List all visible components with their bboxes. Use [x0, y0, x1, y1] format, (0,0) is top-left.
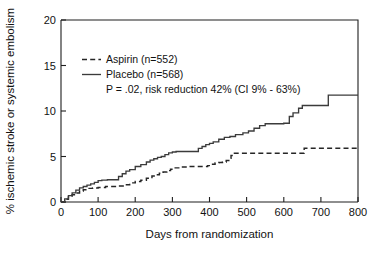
y-axis-ticks: 0 5 10 15 20 [44, 14, 66, 208]
x-tick-label-700: 700 [312, 206, 330, 218]
x-tick-label-100: 100 [89, 206, 107, 218]
x-tick-label-0: 0 [58, 206, 64, 218]
plot-frame [61, 20, 358, 202]
legend-label-placebo: Placebo (n=568) [106, 68, 183, 80]
legend-note-statistics: P = .02, risk reduction 42% (CI 9% - 63%… [106, 83, 300, 95]
x-tick-label-600: 600 [275, 206, 293, 218]
x-axis-ticks: 0 100 200 300 400 500 600 700 800 [58, 197, 367, 218]
legend-label-aspirin: Aspirin (n=552) [106, 53, 178, 65]
axis-top-right [61, 20, 358, 202]
x-tick-label-300: 300 [163, 206, 181, 218]
series-group [61, 95, 358, 202]
x-tick-label-200: 200 [126, 206, 144, 218]
x-tick-label-500: 500 [237, 206, 255, 218]
kaplan-meier-figure: 0 5 10 15 20 0 100 200 300 400 500 600 7… [0, 0, 382, 253]
x-tick-label-400: 400 [200, 206, 218, 218]
chart-canvas: 0 5 10 15 20 0 100 200 300 400 500 600 7… [0, 0, 382, 253]
series-line-aspirin [61, 148, 358, 202]
axis-left-bottom [61, 20, 358, 202]
x-axis-title: Days from randomization [146, 228, 274, 240]
y-tick-label-20: 20 [44, 14, 56, 26]
y-tick-label-5: 5 [50, 151, 56, 163]
y-axis-title: % ischemic stroke or systemic embolism [4, 8, 16, 214]
y-tick-label-10: 10 [44, 105, 56, 117]
legend: Aspirin (n=552) Placebo (n=568) P = .02,… [82, 53, 300, 95]
y-tick-label-15: 15 [44, 60, 56, 72]
y-tick-label-0: 0 [50, 196, 56, 208]
x-tick-label-800: 800 [349, 206, 367, 218]
